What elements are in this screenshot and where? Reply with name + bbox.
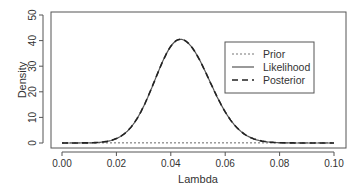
x-axis-label: Lambda (178, 173, 219, 185)
x-tick-label: 0.02 (107, 158, 127, 169)
y-axis: 01020304050 (27, 9, 43, 146)
legend-posterior-label: Posterior (263, 74, 306, 86)
legend-likelihood-label: Likelihood (263, 61, 310, 73)
x-tick-label: 0.00 (52, 158, 72, 169)
y-axis-label: Density (16, 61, 28, 98)
x-tick-label: 0.04 (161, 158, 181, 169)
x-tick-label: 0.10 (324, 158, 344, 169)
x-tick-label: 0.06 (215, 158, 235, 169)
y-tick-label: 50 (27, 9, 38, 21)
y-tick-label: 40 (27, 35, 38, 47)
y-tick-label: 0 (27, 140, 38, 146)
y-tick-label: 30 (27, 60, 38, 72)
density-plot: 01020304050 0.000.020.040.060.080.10 Den… (0, 0, 361, 190)
legend: PriorLikelihoodPosterior (225, 42, 314, 93)
y-tick-label: 20 (27, 86, 38, 98)
x-axis: 0.000.020.040.060.080.10 (52, 152, 344, 169)
y-tick-label: 10 (27, 111, 38, 123)
legend-prior-label: Prior (263, 48, 286, 60)
x-tick-label: 0.08 (270, 158, 290, 169)
